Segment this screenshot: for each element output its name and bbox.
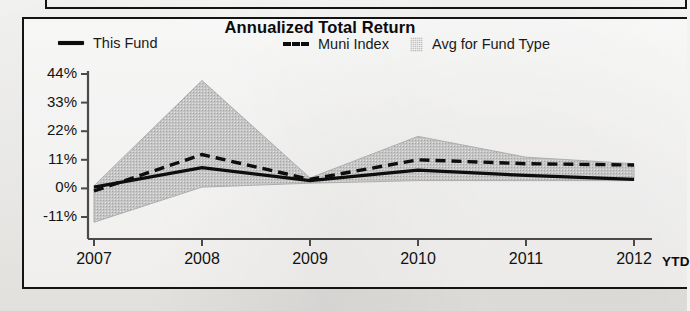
x-axis-ytd-label: YTD [662, 254, 690, 269]
y-axis-tick-label: 44% [15, 64, 77, 81]
x-axis-tick-label: 2009 [270, 250, 350, 268]
y-axis-tick-label: -11% [15, 207, 77, 224]
avg-for-fund-type-band [94, 81, 634, 223]
plot-area: 44% 33% 22% 11% 0% -11% 2007 2008 2009 2… [22, 17, 687, 289]
y-axis-tick-label: 22% [15, 121, 77, 138]
upper-panel-border [45, 0, 687, 9]
y-axis-tick-label: 33% [15, 93, 77, 110]
chart-svg [22, 17, 687, 289]
avg-band-polygon [94, 81, 634, 223]
x-axis-tick-label: 2008 [162, 250, 242, 268]
x-axis-tick-label: 2007 [54, 250, 134, 268]
x-axis-tick-label: 2011 [486, 250, 566, 268]
y-axis-tick-label: 11% [15, 150, 77, 167]
x-axis-tick-label: 2010 [378, 250, 458, 268]
y-axis-tick-label: 0% [15, 178, 77, 195]
